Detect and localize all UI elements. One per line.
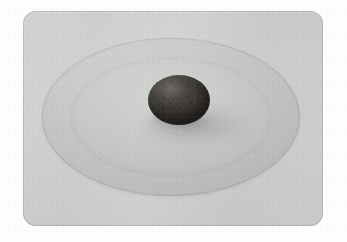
gray-backdrop-panel: [23, 11, 323, 226]
photo-scene: A dark gray-brown ellipsoidal stone sits…: [0, 0, 347, 242]
stone-specular-highlight: [157, 80, 189, 102]
dark-ellipsoid-stone: [148, 75, 210, 125]
stone-underside-shading: [148, 75, 210, 125]
stone-grain-texture: [148, 75, 210, 125]
